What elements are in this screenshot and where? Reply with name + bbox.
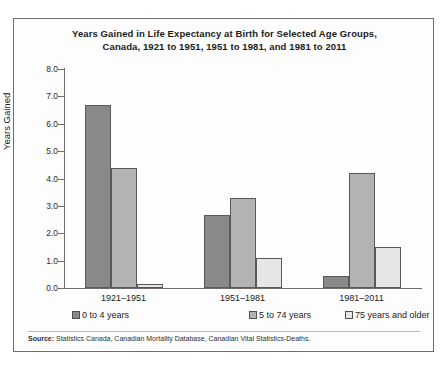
- legend-label: 5 to 74 years: [259, 310, 311, 320]
- bar: [85, 105, 111, 288]
- legend-label: 0 to 4 years: [82, 310, 129, 320]
- y-axis-tick-label: 3.0: [18, 201, 58, 211]
- chart-title: Years Gained in Life Expectancy at Birth…: [14, 28, 435, 53]
- x-axis-category-label: 1951–1981: [220, 293, 265, 303]
- legend-label: 75 years and older: [355, 310, 430, 320]
- x-axis-category-label: 1921–1951: [101, 293, 146, 303]
- bar: [323, 276, 349, 288]
- bar: [375, 247, 401, 288]
- y-axis-tick-label: 0.0: [18, 283, 58, 293]
- legend-item[interactable]: 75 years and older: [345, 310, 430, 320]
- chart-legend: 0 to 4 years5 to 74 years75 years and ol…: [64, 310, 421, 324]
- y-axis-tick-label: 5.0: [18, 146, 58, 156]
- y-axis-tick-label: 8.0: [18, 64, 58, 74]
- source-label: Source:: [28, 335, 54, 342]
- y-axis-title: Years Gained: [1, 93, 12, 150]
- x-axis-line: [64, 288, 422, 289]
- y-axis-tick-label: 4.0: [18, 174, 58, 184]
- source-text: Statistics Canada, Canadian Mortality Da…: [54, 335, 310, 342]
- legend-item[interactable]: 5 to 74 years: [249, 310, 311, 320]
- chart-title-line-2: Canada, 1921 to 1951, 1951 to 1981, and …: [14, 41, 435, 54]
- source-note: Source: Statistics Canada, Canadian Mort…: [28, 335, 310, 342]
- y-axis-tick-label: 6.0: [18, 119, 58, 129]
- legend-swatch-icon: [345, 311, 353, 319]
- y-axis-tick: [58, 288, 64, 289]
- bar: [111, 168, 137, 288]
- bar: [349, 173, 375, 288]
- bar: [230, 198, 256, 288]
- source-divider: [28, 331, 420, 332]
- x-axis-category-label: 1981–2011: [339, 293, 383, 303]
- legend-swatch-icon: [249, 311, 257, 319]
- chart-title-line-1: Years Gained in Life Expectancy at Birth…: [72, 28, 377, 39]
- bar: [137, 284, 163, 288]
- plot-area: [64, 69, 421, 288]
- legend-item[interactable]: 0 to 4 years: [72, 310, 129, 320]
- figure-frame: Years Gained in Life Expectancy at Birth…: [13, 18, 434, 352]
- bar: [256, 258, 282, 288]
- y-axis-tick-label: 7.0: [18, 91, 58, 101]
- legend-swatch-icon: [72, 311, 80, 319]
- y-axis-tick-label: 1.0: [18, 256, 58, 266]
- bar: [204, 215, 230, 288]
- y-axis-tick-label: 2.0: [18, 228, 58, 238]
